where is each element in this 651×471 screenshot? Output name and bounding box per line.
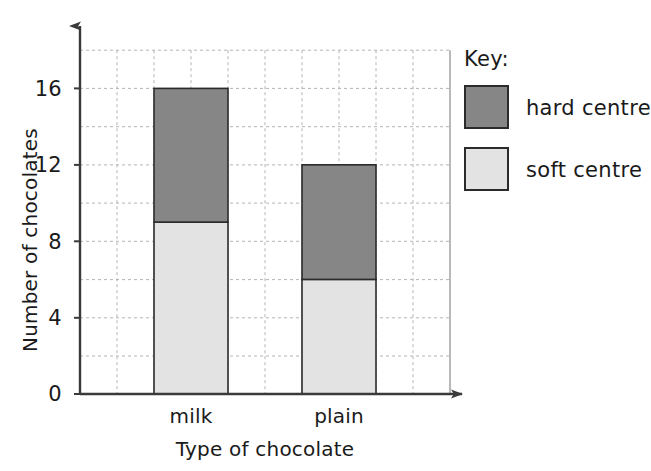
x-axis-title: Type of chocolate bbox=[65, 437, 465, 461]
bar-milk-soft-centre[interactable] bbox=[154, 222, 228, 394]
y-axis-title: Number of chocolates bbox=[18, 128, 42, 352]
bar-group-milk[interactable] bbox=[154, 88, 228, 394]
x-category-label-milk: milk bbox=[121, 404, 261, 428]
x-category-label-plain: plain bbox=[269, 404, 409, 428]
bar-milk-hard-centre[interactable] bbox=[154, 88, 228, 222]
y-tick-label-16: 16 bbox=[22, 77, 62, 101]
bar-plain-soft-centre[interactable] bbox=[302, 279, 376, 394]
legend-swatch-hard-centre[interactable] bbox=[464, 85, 509, 129]
legend-title: Key: bbox=[464, 47, 509, 71]
legend-swatch-soft-centre[interactable] bbox=[464, 147, 509, 191]
bar-plain-hard-centre[interactable] bbox=[302, 165, 376, 280]
y-tick-label-0: 0 bbox=[22, 382, 62, 406]
legend-label-hard-centre: hard centre bbox=[526, 96, 651, 120]
legend-label-soft-centre: soft centre bbox=[526, 158, 642, 182]
bar-group-plain[interactable] bbox=[302, 165, 376, 394]
